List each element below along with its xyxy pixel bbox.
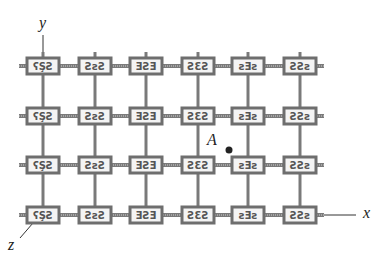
svg-text:ʕŞƧ: ʕŞƧ: [33, 61, 53, 72]
svg-text:ƎƧƎ: ƎƧƎ: [136, 160, 157, 171]
svg-text:ʕŞƧ: ʕŞƧ: [33, 210, 53, 221]
svg-text:ƧƧƨ: ƧƧƨ: [290, 111, 310, 122]
z-axis-line: [20, 223, 33, 238]
svg-text:ƎƧƎ: ƎƧƎ: [136, 210, 157, 221]
svg-text:ƧƨƧ: ƧƨƧ: [85, 210, 105, 221]
x-axis-label: x: [363, 204, 370, 222]
svg-text:ƨƎƨ: ƨƎƨ: [239, 210, 258, 221]
svg-text:ƧƐƧ: ƧƐƧ: [187, 61, 208, 72]
svg-text:ƧƨƧ: ƧƨƧ: [85, 160, 105, 171]
svg-text:ƨƎƨ: ƨƎƨ: [239, 111, 258, 122]
svg-text:ʕŞƧ: ʕŞƧ: [33, 111, 53, 122]
lattice-diagram: ʕŞƧƧƨƧƎƧƎƧƐƧƨƎƨƧƧƨʕŞƧƧƨƧƎƧƎƧƐƧƨƎƨƧƧƨʕŞƧƧ…: [0, 0, 389, 262]
svg-text:ʕŞƧ: ʕŞƧ: [33, 160, 53, 171]
svg-text:ƧƐƧ: ƧƐƧ: [187, 160, 208, 171]
svg-text:ƧƨƧ: ƧƨƧ: [85, 61, 105, 72]
svg-text:ƨƎƨ: ƨƎƨ: [239, 160, 258, 171]
svg-text:ƨƎƨ: ƨƎƨ: [239, 61, 258, 72]
svg-text:ƧƐƧ: ƧƐƧ: [187, 210, 208, 221]
svg-text:ƎƧƎ: ƎƧƎ: [136, 61, 157, 72]
point-a-dot: [226, 147, 233, 154]
svg-text:ƧƐƧ: ƧƐƧ: [187, 111, 208, 122]
point-a-label: A: [207, 131, 217, 149]
svg-text:ƧƧƨ: ƧƧƨ: [290, 210, 310, 221]
z-axis-label: z: [8, 236, 14, 254]
svg-text:ƧƨƧ: ƧƨƧ: [85, 111, 105, 122]
svg-text:ƧƧƨ: ƧƧƨ: [290, 160, 310, 171]
y-axis-label: y: [39, 14, 46, 32]
svg-text:ƧƧƨ: ƧƧƨ: [290, 61, 310, 72]
svg-text:ƎƧƎ: ƎƧƎ: [136, 111, 157, 122]
